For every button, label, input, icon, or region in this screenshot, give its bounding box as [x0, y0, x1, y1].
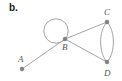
vertex-a: [20, 67, 24, 71]
vertex-d: [105, 60, 109, 64]
vertex-label-d: D: [103, 68, 111, 78]
edge-a-b: [22, 39, 65, 69]
vertex-label-a: A: [17, 54, 24, 64]
vertex-c: [105, 20, 109, 24]
graph-diagram: A B C D: [0, 0, 122, 81]
vertex-label-b: B: [62, 42, 68, 52]
figure-container: b. A B C D: [0, 0, 122, 81]
edge-c-d-left: [101, 22, 107, 62]
edge-c-d-right: [107, 22, 113, 62]
vertex-label-c: C: [104, 7, 111, 17]
vertex-b: [63, 37, 67, 41]
